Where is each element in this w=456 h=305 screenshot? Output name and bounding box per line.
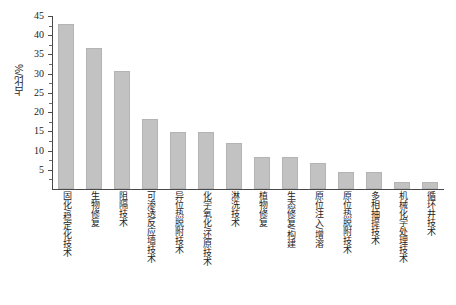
y-tick-label: 15 <box>4 126 44 136</box>
y-tick-label-wrap: 15 <box>0 126 44 136</box>
bars-layer <box>52 16 444 189</box>
y-tick-label: 5 <box>4 165 44 175</box>
bar <box>58 24 74 189</box>
y-tick-label: 35 <box>4 49 44 59</box>
x-axis-labels: 固化/稳定化技术生物修复阻隔技术可渗透反应墙技术异位热脱附技术化学氧化/还原技术… <box>52 191 444 303</box>
bar <box>254 157 270 189</box>
y-tick-label: 30 <box>4 69 44 79</box>
x-axis-label: 固化/稳定化技术 <box>61 191 72 257</box>
y-tick-label-wrap: 30 <box>0 69 44 79</box>
y-tick-label-wrap: 20 <box>0 107 44 117</box>
bar <box>86 48 102 189</box>
x-axis-label: 循环井技术 <box>425 191 436 236</box>
bar <box>114 71 130 189</box>
x-axis-label: 多相抽提技术 <box>369 191 380 245</box>
x-axis-label: 阻隔技术 <box>117 191 128 227</box>
x-axis-label: 生物修复 <box>89 191 100 227</box>
y-tick-label: 40 <box>4 30 44 40</box>
x-axis-label: 化学氧化/还原技术 <box>201 191 212 266</box>
y-tick-label: 10 <box>4 146 44 156</box>
y-tick-label: 20 <box>4 107 44 117</box>
bar <box>366 172 382 189</box>
x-axis-label: 异位热脱附技术 <box>173 191 184 254</box>
bar <box>170 132 186 189</box>
bar <box>394 182 410 189</box>
bar <box>338 172 354 189</box>
y-tick-label: 25 <box>4 88 44 98</box>
x-axis-label: 原位热脱附技术 <box>341 191 352 254</box>
bar <box>142 119 158 189</box>
y-tick-label-wrap: 40 <box>0 30 44 40</box>
x-axis-label: 生态修复/构建 <box>285 191 296 248</box>
y-tick-label-wrap: 5 <box>0 165 44 175</box>
x-axis-line <box>52 189 444 190</box>
x-axis-label: 淋洗技术 <box>229 191 240 227</box>
y-tick-label-wrap: 45 <box>0 11 44 21</box>
bar <box>226 143 242 189</box>
bar-chart: 占比/% 51015202530354045 固化/稳定化技术生物修复阻隔技术可… <box>0 0 456 305</box>
bar <box>198 132 214 189</box>
x-axis-label: 可渗透反应墙技术 <box>145 191 156 263</box>
x-axis-label: 植物修复 <box>257 191 268 227</box>
y-tick-label-wrap: 25 <box>0 88 44 98</box>
y-tick-label-wrap: 35 <box>0 49 44 59</box>
bar <box>422 182 438 189</box>
x-axis-label: 机械化学处理技术 <box>397 191 408 263</box>
bar <box>310 163 326 189</box>
bar <box>282 157 298 189</box>
x-axis-label: 原位注入/增溶 <box>313 191 324 248</box>
y-tick-label: 45 <box>4 11 44 21</box>
y-tick-label-wrap: 10 <box>0 146 44 156</box>
